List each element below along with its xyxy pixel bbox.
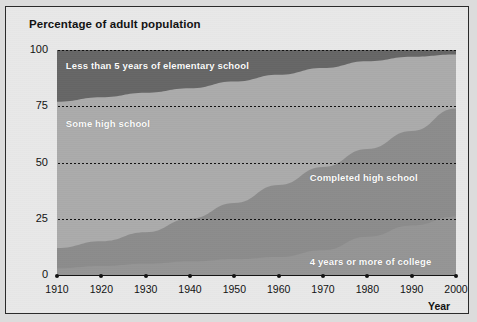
x-tick-label: 1910 [37,283,77,295]
x-tick-label: 1920 [81,283,121,295]
figure-page: Percentage of adult population 025507510… [0,0,477,322]
x-tick-label: 1930 [126,283,166,295]
gridline [57,163,456,164]
x-tick-label: 1960 [259,283,299,295]
x-tick-label: 1990 [392,283,432,295]
series-label: Completed high school [310,172,418,183]
gridline [57,219,456,220]
y-tick-label: 25 [14,212,48,224]
x-tick-label: 1980 [347,283,387,295]
figure-panel: Percentage of adult population 025507510… [5,6,469,314]
series-label: Some high school [66,118,150,129]
x-axis-line [57,275,456,276]
gridline [57,106,456,107]
chart-title: Percentage of adult population [29,18,201,30]
gridline [57,50,456,51]
y-tick-label: 100 [14,43,48,55]
series-label: 4 years or more of college [310,256,432,267]
y-tick-label: 0 [14,268,48,280]
x-tick-label: 1940 [170,283,210,295]
y-tick-label: 50 [14,156,48,168]
x-tick-label: 1970 [303,283,343,295]
x-tick-label: 1950 [214,283,254,295]
x-tick-label: 2000 [436,283,476,295]
y-tick-label: 75 [14,99,48,111]
x-axis-title: Year [428,300,450,312]
series-label: Less than 5 years of elementary school [66,60,249,71]
